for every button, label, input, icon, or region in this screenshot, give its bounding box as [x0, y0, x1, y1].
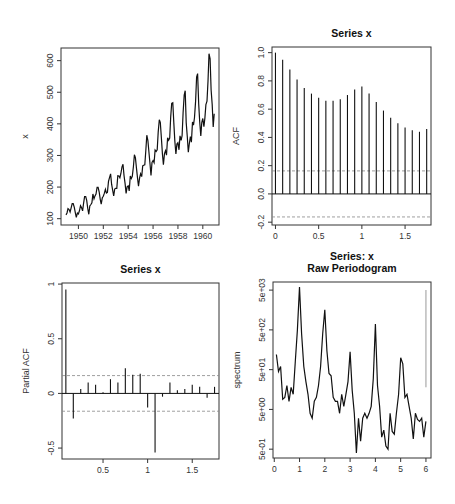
- plot-frame: [272, 47, 431, 225]
- plot-frame: [62, 283, 219, 459]
- y-tick-label: 200: [45, 180, 55, 194]
- y-tick-label: 5e+01: [257, 357, 267, 381]
- y-tick-label: 1: [46, 281, 56, 286]
- y-tick-label: 100: [45, 211, 55, 225]
- y-tick-label: 0.6: [256, 103, 266, 115]
- y-tick-label: 400: [45, 116, 55, 130]
- y-tick-label: 1.0: [256, 46, 266, 58]
- chart-title: Series: x: [330, 250, 374, 262]
- x-tick-label: 1: [145, 465, 150, 475]
- y-axis-label: Partial ACF: [21, 348, 31, 394]
- x-tick-label: 1.5: [186, 465, 198, 475]
- x-tick-label: 4: [373, 464, 378, 474]
- y-tick-label: 500: [45, 85, 55, 99]
- x-tick-label: 1.5: [399, 231, 411, 241]
- x-tick-label: 5: [398, 464, 403, 474]
- time-series-panel: x195019521954195619581960100200300400500…: [20, 48, 219, 241]
- x-tick-label: 1: [360, 231, 365, 241]
- pacf-panel: Series xPartial ACF0.511.5-0.500.51: [21, 263, 219, 475]
- y-tick-label: 0.2: [256, 159, 266, 171]
- y-axis-label: spectrum: [232, 351, 242, 388]
- chart-title: Series x: [120, 263, 160, 275]
- figure-canvas: x195019521954195619581960100200300400500…: [0, 0, 455, 504]
- y-tick-label: 0.4: [256, 131, 266, 143]
- plot-frame: [273, 282, 431, 458]
- x-tick-label: 3: [348, 464, 353, 474]
- y-tick-label: 0: [46, 391, 56, 396]
- y-tick-label: 0.0: [256, 188, 266, 200]
- x-tick-label: 6: [424, 464, 429, 474]
- y-tick-label: -0.5: [46, 440, 56, 455]
- periodogram-panel: Series: xRaw Periodogramspectrum01234565…: [232, 250, 431, 474]
- y-tick-label: -0.2: [256, 215, 266, 230]
- y-tick-label: 0.5: [46, 333, 56, 345]
- chart-title: Raw Periodogram: [307, 262, 396, 274]
- series-line: [66, 54, 214, 218]
- x-tick-label: 0.5: [97, 465, 109, 475]
- x-tick-label: 1950: [69, 231, 88, 241]
- x-tick-label: 1952: [94, 231, 113, 241]
- x-tick-label: 1954: [119, 231, 138, 241]
- y-tick-label: 5e+00: [257, 397, 267, 421]
- x-tick-label: 0: [273, 231, 278, 241]
- y-axis-label: x: [20, 134, 30, 139]
- y-tick-label: 5e+03: [257, 278, 267, 302]
- y-tick-label: 0.8: [256, 75, 266, 87]
- x-tick-label: 1: [297, 464, 302, 474]
- y-axis-label: ACF: [231, 126, 241, 145]
- x-tick-label: 2: [322, 464, 327, 474]
- y-tick-label: 5e+02: [257, 318, 267, 342]
- x-tick-label: 0: [272, 464, 277, 474]
- x-tick-label: 1956: [144, 231, 163, 241]
- x-tick-label: 1960: [193, 231, 212, 241]
- acf-panel: Series xACF00.511.5-0.20.00.20.40.60.81.…: [231, 27, 431, 241]
- y-tick-label: 300: [45, 148, 55, 162]
- y-tick-label: 600: [45, 53, 55, 67]
- x-tick-label: 1958: [168, 231, 187, 241]
- x-tick-label: 0.5: [313, 231, 325, 241]
- y-tick-label: 5e-01: [257, 438, 267, 460]
- chart-title: Series x: [331, 27, 371, 39]
- spectrum-line: [276, 287, 426, 453]
